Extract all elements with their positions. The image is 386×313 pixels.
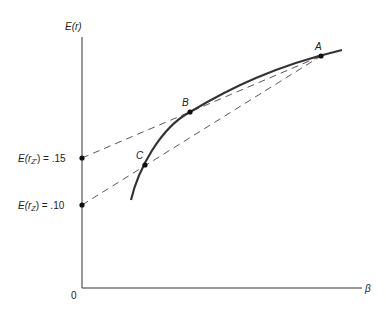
point-c <box>142 162 147 167</box>
point-z-prime <box>79 155 84 160</box>
origin-label: 0 <box>71 290 77 301</box>
point-a-label: A <box>314 41 322 52</box>
dashed-line-z-to-a <box>82 56 321 205</box>
efficient-frontier-diagram: E(r) β 0 A B C E(rZ') = .15 E(rZ) = .10 <box>0 0 386 313</box>
point-b-label: B <box>182 97 189 108</box>
frontier-curve <box>131 50 342 200</box>
x-axis-label: β <box>364 283 371 294</box>
dashed-line-z-prime-to-a <box>82 56 321 158</box>
tick-label-15: E(rZ') = .15 <box>18 153 66 165</box>
y-axis-label: E(r) <box>65 21 82 32</box>
point-c-label: C <box>136 150 144 161</box>
point-z <box>79 202 84 207</box>
tick-label-10: E(rZ) = .10 <box>18 200 65 212</box>
point-b <box>187 109 192 114</box>
point-a <box>318 53 323 58</box>
